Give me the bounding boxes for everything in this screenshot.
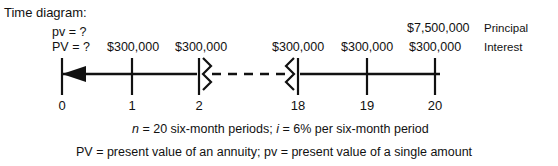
timeline-ticks: [62, 58, 435, 95]
footnote-periods-and-rate: n = 20 six-month periods; i = 6% per six…: [132, 123, 429, 136]
footnote-n-symbol: n: [132, 122, 139, 136]
tick-label-20: 20: [425, 99, 445, 112]
footnote-rate-text: = 6% per six-month period: [279, 122, 429, 136]
tick-label-0: 0: [52, 99, 72, 112]
timeline-break-right: [286, 58, 294, 90]
tick-label-2: 2: [189, 99, 209, 112]
tick-label-18: 18: [288, 99, 308, 112]
footnote-pv-definitions: PV = present value of an annuity; pv = p…: [76, 146, 472, 159]
time-diagram-figure: Time diagram: pv = ? PV = ? $300,000 $30…: [0, 0, 558, 166]
present-value-arrowhead: [62, 66, 86, 82]
footnote-periods-text: = 20 six-month periods;: [139, 122, 276, 136]
timeline-break-left: [203, 58, 211, 90]
timeline-axis: [0, 0, 558, 166]
tick-label-19: 19: [357, 99, 377, 112]
tick-label-1: 1: [122, 99, 142, 112]
